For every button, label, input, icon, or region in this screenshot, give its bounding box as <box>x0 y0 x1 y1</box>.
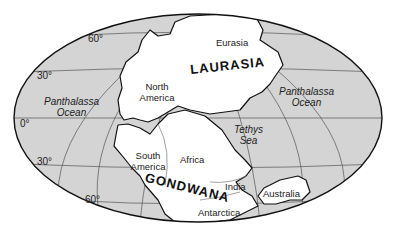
continent-label-africa: Africa <box>180 154 204 165</box>
sea-name: Tethys <box>234 124 263 135</box>
continent-label-antarctica: Antarctica <box>198 207 240 218</box>
ocean-name: Panthalassa <box>279 86 334 97</box>
pangaea-map <box>0 0 393 236</box>
ocean-type: Ocean <box>44 107 99 118</box>
sea-type: Sea <box>234 135 263 146</box>
latitude-label-30n: 30° <box>37 70 52 81</box>
continent-label-australia: Australia <box>263 188 300 199</box>
latitude-label-equator: 0° <box>20 118 30 129</box>
ocean-name: Panthalassa <box>44 96 99 107</box>
latitude-label-60n: 60° <box>88 33 103 44</box>
ocean-type: Ocean <box>279 97 334 108</box>
latitude-label-30s: 30° <box>37 156 52 167</box>
latitude-label-60s: 60° <box>85 194 100 205</box>
continent-label-north-america: North America <box>137 81 177 103</box>
continent-label-eurasia: Eurasia <box>216 37 248 48</box>
continent-label-south-america: South America <box>128 150 168 172</box>
ocean-label-tethys: Tethys Sea <box>234 124 263 146</box>
ocean-label-panthalassa-east: Panthalassa Ocean <box>279 86 334 108</box>
ocean-label-panthalassa-west: Panthalassa Ocean <box>44 96 99 118</box>
